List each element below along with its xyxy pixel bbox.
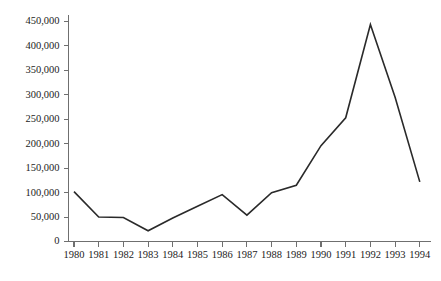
y-tick-label: 200,000 xyxy=(25,138,59,149)
x-tick-label: 1993 xyxy=(385,249,406,260)
x-tick-label: 1984 xyxy=(162,249,184,260)
x-tick-label: 1980 xyxy=(64,249,85,260)
x-tick-label: 1987 xyxy=(236,249,257,260)
y-tick-label: 400,000 xyxy=(25,40,59,51)
y-tick-label: 150,000 xyxy=(25,162,59,173)
y-tick-label: 0 xyxy=(54,235,59,246)
chart-background xyxy=(0,0,441,281)
x-tick-label: 1988 xyxy=(261,249,282,260)
y-tick-label: 50,000 xyxy=(31,211,60,222)
x-tick-label: 1992 xyxy=(360,249,381,260)
y-tick-label: 250,000 xyxy=(25,113,59,124)
x-tick-label: 1986 xyxy=(212,249,233,260)
y-tick-label: 100,000 xyxy=(25,187,59,198)
x-tick-label: 1985 xyxy=(187,249,208,260)
y-tick-label: 350,000 xyxy=(25,64,59,75)
x-tick-label: 1989 xyxy=(286,249,307,260)
line-chart: 050,000100,000150,000200,000250,000300,0… xyxy=(0,0,441,281)
x-tick-label: 1991 xyxy=(335,249,356,260)
y-tick-label: 450,000 xyxy=(25,15,59,26)
chart-canvas: 050,000100,000150,000200,000250,000300,0… xyxy=(0,0,441,281)
y-tick-label: 300,000 xyxy=(25,89,59,100)
x-tick-label: 1983 xyxy=(138,249,159,260)
x-tick-label: 1994 xyxy=(409,249,431,260)
x-tick-label: 1981 xyxy=(88,249,109,260)
x-tick-label: 1990 xyxy=(311,249,332,260)
x-tick-label: 1982 xyxy=(113,249,134,260)
